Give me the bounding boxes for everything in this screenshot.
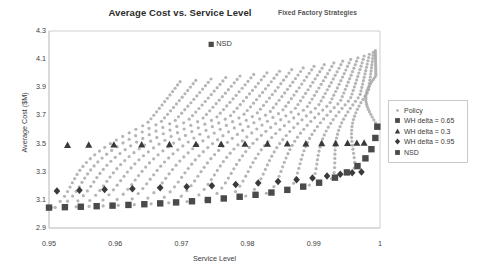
policy-point (254, 157, 257, 160)
policy-point (311, 97, 314, 100)
data-point (173, 199, 179, 205)
policy-point (204, 129, 207, 132)
policy-point (272, 77, 275, 80)
data-point (361, 139, 368, 145)
policy-point (286, 152, 289, 155)
data-point (125, 202, 131, 208)
policy-point (160, 120, 163, 123)
policy-point (251, 89, 254, 92)
policy-point (100, 156, 103, 159)
policy-point (330, 81, 333, 84)
square-marker-icon (393, 148, 402, 157)
policy-point (297, 112, 300, 115)
data-point (332, 140, 339, 146)
policy-point (301, 95, 304, 98)
policy-point (322, 79, 325, 82)
policy-point (213, 153, 216, 156)
square-marker-icon (393, 116, 402, 125)
policy-point (347, 81, 350, 84)
dot-glyph (396, 109, 399, 112)
policy-point (294, 107, 297, 110)
policy-point (87, 205, 90, 208)
policy-point (222, 160, 225, 163)
policy-point (183, 127, 186, 130)
policy-point (346, 65, 349, 68)
policy-point (95, 176, 98, 179)
policy-point (267, 84, 270, 87)
policy-point (198, 91, 201, 94)
policy-point (161, 181, 164, 184)
data-point (221, 195, 227, 201)
policy-point (82, 194, 85, 197)
policy-point (168, 128, 171, 131)
policy-point (172, 106, 175, 109)
policy-point (255, 127, 258, 130)
policy-point (141, 137, 144, 140)
policy-point (302, 66, 305, 69)
policy-point (325, 105, 328, 108)
policy-point (268, 159, 271, 162)
policy-point (358, 68, 361, 71)
data-point (157, 200, 163, 206)
policy-point (246, 80, 249, 83)
legend-item[interactable]: Policy (393, 105, 464, 115)
policy-point (262, 172, 265, 175)
policy-point (112, 188, 115, 191)
policy-point (356, 75, 359, 78)
policy-point (329, 101, 332, 104)
policy-point (126, 170, 129, 173)
policy-point (245, 119, 248, 122)
policy-point (344, 103, 347, 106)
policy-point (96, 160, 99, 163)
policy-point (54, 206, 57, 209)
policy-point (357, 71, 360, 74)
data-point (344, 169, 350, 175)
data-point (354, 163, 360, 169)
data-point (129, 185, 136, 193)
legend-item[interactable]: WH delta = 0.65 (393, 116, 464, 126)
policy-point (195, 94, 198, 97)
policy-point (86, 172, 89, 175)
policy-point (284, 114, 287, 117)
policy-point (304, 92, 307, 95)
policy-point (279, 82, 282, 85)
policy-point (329, 110, 332, 113)
policy-point (301, 153, 304, 156)
policy-point (357, 96, 360, 99)
policy-point (181, 144, 184, 147)
data-point (358, 168, 365, 176)
policy-point (257, 152, 260, 155)
policy-point (105, 180, 108, 183)
policy-point (163, 139, 166, 142)
legend-label: Policy (404, 106, 423, 115)
policy-point (147, 150, 150, 153)
policy-point (273, 150, 276, 153)
policy-point (316, 158, 319, 161)
policy-point (308, 72, 311, 75)
policy-point (363, 54, 366, 57)
policy-point (291, 144, 294, 147)
policy-point (176, 131, 179, 134)
policy-point (351, 144, 354, 147)
policy-point (269, 126, 272, 129)
policy-point (157, 153, 160, 156)
policy-point (272, 106, 275, 109)
legend-item[interactable]: WH delta = 0.3 (393, 126, 464, 136)
policy-point (248, 92, 251, 95)
policy-point (134, 178, 137, 181)
policy-point (218, 99, 221, 102)
policy-point (196, 120, 199, 123)
policy-point (295, 90, 298, 93)
policy-point (71, 181, 74, 184)
policy-point (146, 196, 149, 199)
legend-item[interactable]: WH delta = 0.95 (393, 137, 464, 147)
policy-point (168, 93, 171, 96)
legend-item[interactable]: NSD (393, 147, 464, 157)
policy-point (281, 165, 284, 168)
policy-point (338, 83, 341, 86)
policy-point (89, 168, 92, 171)
policy-point (227, 130, 230, 133)
policy-point (190, 130, 193, 133)
policy-point (260, 124, 263, 127)
policy-point (328, 68, 331, 71)
